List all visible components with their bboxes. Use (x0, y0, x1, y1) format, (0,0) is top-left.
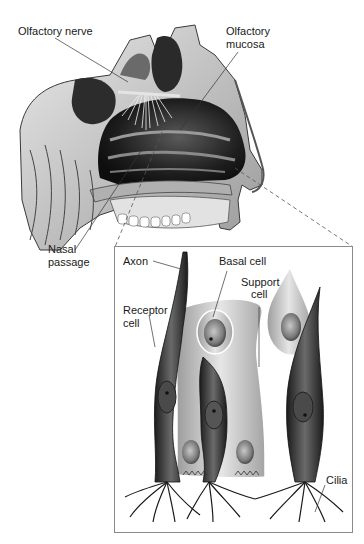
epithelium-illustration (115, 247, 354, 534)
label-olfactory-nerve: Olfactory nerve (18, 25, 93, 37)
label-axon: Axon (123, 255, 148, 267)
cilia (125, 482, 343, 522)
label-olfactory-mucosa-line2: mucosa (226, 38, 265, 50)
label-receptor-cell-line1: Receptor (123, 304, 168, 316)
label-nasal-passage-line2: passage (48, 256, 90, 268)
label-receptor-cell-line2: cell (123, 317, 140, 329)
epithelium-inset: Axon Basal cell Support cell Receptor ce… (114, 246, 353, 533)
label-nasal-passage-line1: Nasal (48, 243, 76, 255)
label-olfactory-mucosa-line1: Olfactory (226, 25, 270, 37)
label-support-cell-line1: Support (241, 276, 280, 288)
label-basal-cell: Basal cell (219, 255, 266, 267)
label-support-cell-line2: cell (251, 288, 268, 300)
olfactory-diagram: Olfactory nerve Olfactory mucosa Nasal p… (0, 0, 364, 544)
label-cilia: Cilia (326, 474, 347, 486)
